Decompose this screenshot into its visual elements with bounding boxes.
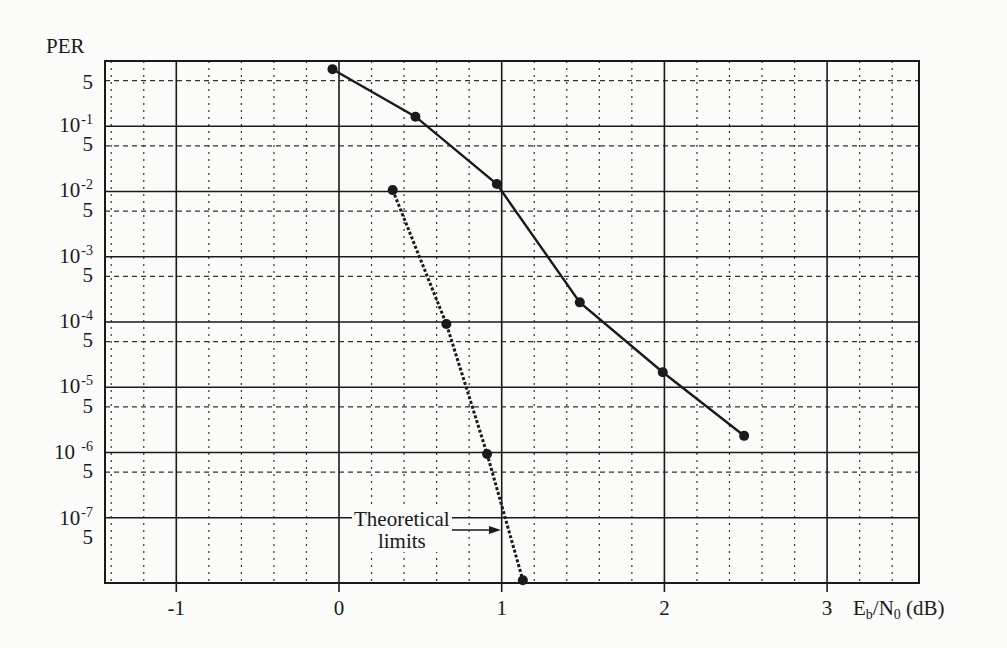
data-point-marker [327,64,337,74]
data-point-marker [739,431,749,441]
x-axis-title: Eb/N0 (dB) [853,598,945,622]
annotation-line-2: limits [354,530,450,552]
y-tick-label: 5 [33,396,93,417]
y-tick-label: 5 [33,527,93,548]
simulated-per-line [333,69,745,436]
y-axis-title: PER [46,36,85,57]
y-tick-label: 5 [33,134,93,155]
x-title-sub-b: b [866,607,873,622]
major-grid [105,61,919,583]
per-chart [0,0,1007,648]
annotation-arrow [450,526,501,534]
annotation-line-1: Theoretical [354,508,450,530]
data-point-marker [441,319,451,329]
y-tick-label: 5 [33,72,93,93]
x-tick-label: -1 [156,598,196,619]
y-tick-label: 5 [33,200,93,221]
theoretical-limits-annotation: Theoretical limits [352,508,452,552]
x-title-n: /N [873,596,894,620]
data-point-marker [658,367,668,377]
y-tick-label: 5 [33,461,93,482]
data-point-marker [410,112,420,122]
y-tick-label: 5 [33,265,93,286]
data-point-marker [388,185,398,195]
x-title-unit: (dB) [901,596,945,620]
x-tick-marks [176,583,827,592]
x-tick-label: 3 [807,598,847,619]
data-point-marker [575,297,585,307]
x-title-sub-0: 0 [894,607,901,622]
y-tick-label: 5 [33,330,93,351]
x-tick-label: 2 [644,598,684,619]
data-point-marker [492,179,502,189]
data-point-marker [518,575,528,585]
x-tick-label: 1 [482,598,522,619]
data-point-marker [482,449,492,459]
x-title-e: E [853,596,866,620]
x-tick-label: 0 [319,598,359,619]
